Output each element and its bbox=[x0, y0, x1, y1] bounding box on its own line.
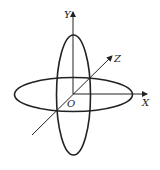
z-axis bbox=[32, 56, 112, 135]
y-axis-label: Y bbox=[64, 9, 72, 20]
x-axis-label: X bbox=[141, 97, 150, 108]
axes-diagram: Y Z X O bbox=[0, 0, 160, 170]
z-axis-label: Z bbox=[113, 53, 122, 64]
origin-label: O bbox=[67, 98, 75, 109]
